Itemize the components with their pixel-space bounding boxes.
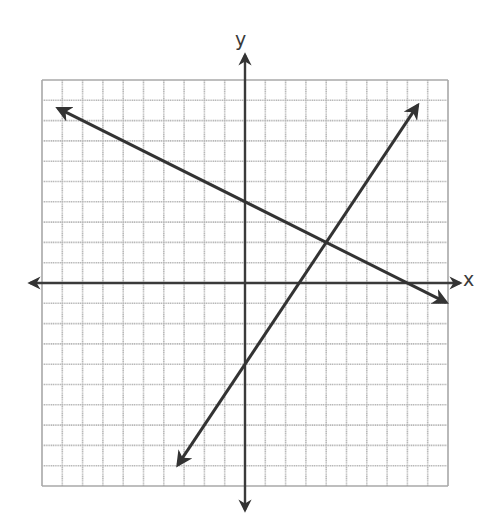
y-axis-label: y [235, 30, 246, 49]
axes [30, 55, 460, 510]
line-increasing [178, 105, 418, 464]
coordinate-plane [0, 0, 500, 530]
x-axis-label: x [463, 270, 474, 289]
